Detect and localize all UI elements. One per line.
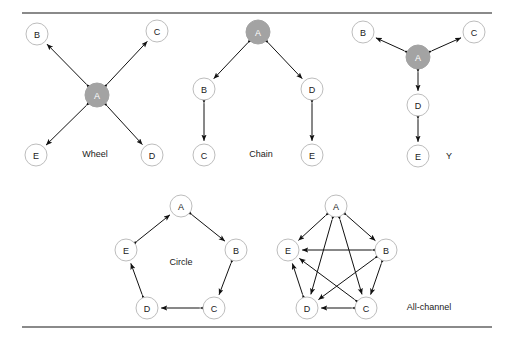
edge-circle-A-B: [192, 215, 225, 241]
node-circle-B: B: [225, 239, 247, 261]
edge-wheel-A-B: [47, 44, 86, 84]
node-label-all-channel-E: E: [285, 246, 291, 256]
node-label-chain-B: B: [201, 85, 207, 95]
node-label-wheel-D: D: [149, 151, 156, 161]
networks-canvas: ABCDEABCDEABCDEABCDEABCDE WheelChainYCir…: [0, 0, 514, 343]
node-label-chain-E: E: [309, 151, 315, 161]
node-all-channel-C: C: [355, 297, 377, 319]
node-label-circle-A: A: [178, 202, 184, 212]
edge-all-channel-A-B: [347, 215, 376, 240]
node-label-all-channel-C: C: [363, 304, 370, 314]
node-label-chain-C: C: [201, 151, 208, 161]
edge-y-A-C: [432, 38, 461, 51]
node-wheel-C: C: [146, 20, 168, 42]
node-y-C: C: [463, 21, 485, 43]
node-circle-C: C: [203, 297, 225, 319]
node-all-channel-B: B: [375, 239, 397, 261]
edge-all-channel-D-E: [292, 263, 302, 294]
edge-all-channel-B-C: [371, 263, 382, 294]
node-wheel-D: D: [141, 144, 163, 166]
node-circle-D: D: [136, 297, 158, 319]
node-y-B: B: [352, 21, 374, 43]
node-label-circle-B: B: [233, 246, 239, 256]
edge-wheel-A-D: [107, 106, 142, 144]
nodes-layer: ABCDEABCDEABCDEABCDEABCDE: [25, 20, 485, 319]
node-label-chain-A: A: [255, 28, 261, 38]
network-labels-layer: WheelChainYCircleAll-channel: [82, 149, 452, 312]
node-circle-E: E: [115, 239, 137, 261]
edge-circle-D-E: [131, 263, 142, 294]
node-chain-A: A: [246, 20, 270, 44]
node-label-wheel-C: C: [154, 27, 161, 37]
node-label-chain-D: D: [309, 85, 316, 95]
edge-wheel-A-C: [107, 41, 147, 84]
node-wheel-A: A: [85, 83, 109, 107]
edge-y-A-B: [376, 38, 404, 51]
node-label-all-channel-B: B: [383, 246, 389, 256]
edge-all-channel-A-C: [340, 220, 362, 295]
node-chain-E: E: [301, 144, 323, 166]
node-chain-C: C: [193, 144, 215, 166]
node-y-D: D: [407, 94, 429, 116]
node-label-wheel-A: A: [94, 91, 100, 101]
network-label-y: Y: [446, 151, 452, 161]
node-label-wheel-B: B: [34, 30, 40, 40]
node-wheel-E: E: [25, 144, 47, 166]
node-label-all-channel-A: A: [333, 202, 339, 212]
node-wheel-B: B: [26, 23, 48, 45]
node-label-y-E: E: [415, 152, 421, 162]
node-y-E: E: [407, 145, 429, 167]
node-all-channel-E: E: [277, 239, 299, 261]
node-circle-A: A: [170, 195, 192, 217]
node-label-circle-E: E: [123, 246, 129, 256]
node-label-circle-D: D: [144, 304, 151, 314]
edge-circle-B-C: [219, 263, 231, 294]
network-label-all-channel: All-channel: [407, 302, 452, 312]
node-chain-B: B: [193, 78, 215, 100]
node-label-circle-C: C: [211, 304, 218, 314]
edges-layer: [46, 38, 461, 308]
node-label-y-C: C: [471, 28, 478, 38]
network-label-chain: Chain: [249, 149, 273, 159]
node-all-channel-A: A: [325, 195, 347, 217]
node-label-y-A: A: [415, 53, 421, 63]
node-label-all-channel-D: D: [304, 304, 311, 314]
edge-circle-E-A: [137, 215, 170, 241]
node-label-wheel-E: E: [33, 151, 39, 161]
edge-all-channel-A-D: [311, 220, 332, 295]
node-label-y-B: B: [360, 28, 366, 38]
edge-chain-A-B: [214, 43, 248, 79]
network-label-circle: Circle: [169, 257, 192, 267]
network-label-wheel: Wheel: [82, 149, 108, 159]
network-diagram-figure: ABCDEABCDEABCDEABCDEABCDE WheelChainYCir…: [0, 0, 514, 343]
edge-all-channel-A-E: [298, 216, 325, 241]
node-chain-D: D: [301, 78, 323, 100]
node-y-A: A: [406, 45, 430, 69]
edge-wheel-A-E: [46, 106, 86, 145]
edge-chain-A-D: [268, 43, 302, 79]
node-all-channel-D: D: [296, 297, 318, 319]
node-label-y-D: D: [415, 101, 422, 111]
